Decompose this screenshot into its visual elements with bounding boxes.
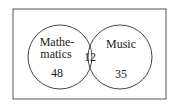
intersection-count: 12	[84, 50, 96, 64]
mathematics-label-line2: matics	[40, 47, 72, 61]
music-label: Music	[106, 37, 136, 51]
mathematics-only-count: 48	[51, 66, 63, 80]
venn-diagram: Mathe- matics 48 12 Music 35	[0, 0, 179, 109]
music-only-count: 35	[115, 67, 127, 81]
